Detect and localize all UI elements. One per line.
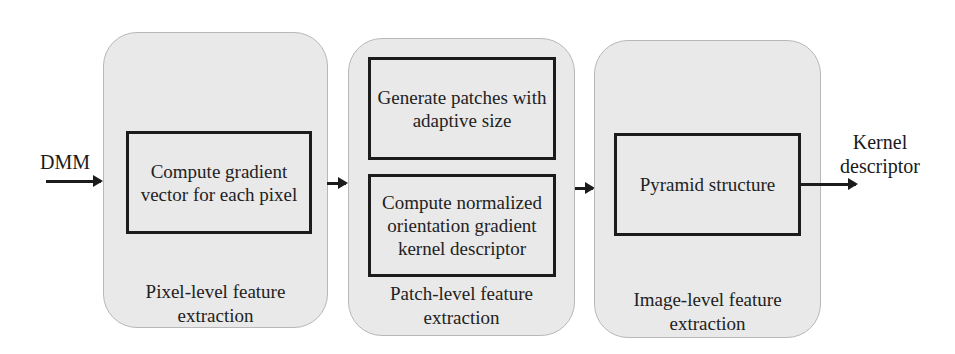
process-box-label: Compute gradient vector for each pixel xyxy=(135,160,303,206)
input-label-dmm: DMM xyxy=(40,150,90,174)
process-box-label: Pyramid structure xyxy=(640,173,776,196)
output-label-line-1: Kernel xyxy=(830,130,930,154)
stage-caption-line-1: Image-level feature xyxy=(595,288,820,312)
stage-panel-patch-level: Generate patches with adaptive size Comp… xyxy=(348,38,575,336)
stage-caption-line-1: Patch-level feature xyxy=(349,282,574,306)
process-box-generate-patches: Generate patches with adaptive size xyxy=(368,57,556,160)
stage-panel-pixel-level: Compute gradient vector for each pixel P… xyxy=(103,32,328,328)
process-box-compute-gradient: Compute gradient vector for each pixel xyxy=(126,131,312,234)
stage-caption: Patch-level feature extraction xyxy=(349,282,574,330)
process-box-label: Compute normalized orientation gradient … xyxy=(377,191,547,260)
process-box-label: Generate patches with adaptive size xyxy=(377,86,547,132)
process-box-pyramid-structure: Pyramid structure xyxy=(614,133,801,236)
stage-caption-line-1: Pixel-level feature xyxy=(104,280,327,304)
output-label-kernel-descriptor: Kernel descriptor xyxy=(830,130,930,178)
arrow-stage2-to-stage3 xyxy=(575,187,593,190)
stage-caption-line-2: extraction xyxy=(349,306,574,330)
stage-caption: Pixel-level feature extraction xyxy=(104,280,327,328)
input-arrow xyxy=(46,180,101,183)
process-box-compute-kernel-descriptor: Compute normalized orientation gradient … xyxy=(368,174,556,277)
stage-caption-line-2: extraction xyxy=(104,304,327,328)
stage-caption: Image-level feature extraction xyxy=(595,288,820,336)
stage-panel-image-level: Pyramid structure Image-level feature ex… xyxy=(594,40,821,338)
arrow-stage1-to-stage2 xyxy=(327,182,346,185)
output-label-line-2: descriptor xyxy=(830,154,930,178)
output-arrow xyxy=(800,183,856,186)
stage-caption-line-2: extraction xyxy=(595,312,820,336)
